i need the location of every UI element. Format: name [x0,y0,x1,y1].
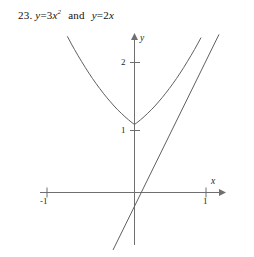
x-tick-label-pos1: 1 [203,196,208,206]
figure-panel: 23. y=3x2 and y=2x -1 1 1 2 y x [0,0,254,257]
y-tick-label-1: 1 [121,125,126,135]
graph-canvas [0,0,254,257]
x-axis-arrowhead [219,189,226,196]
x-tick-label-neg1: -1 [40,196,48,206]
y-axis-label: y [140,33,144,43]
curve-line [113,34,219,250]
x-axis-label: x [211,176,215,186]
y-tick-label-2: 2 [121,57,126,67]
y-axis-arrowhead [131,33,138,40]
